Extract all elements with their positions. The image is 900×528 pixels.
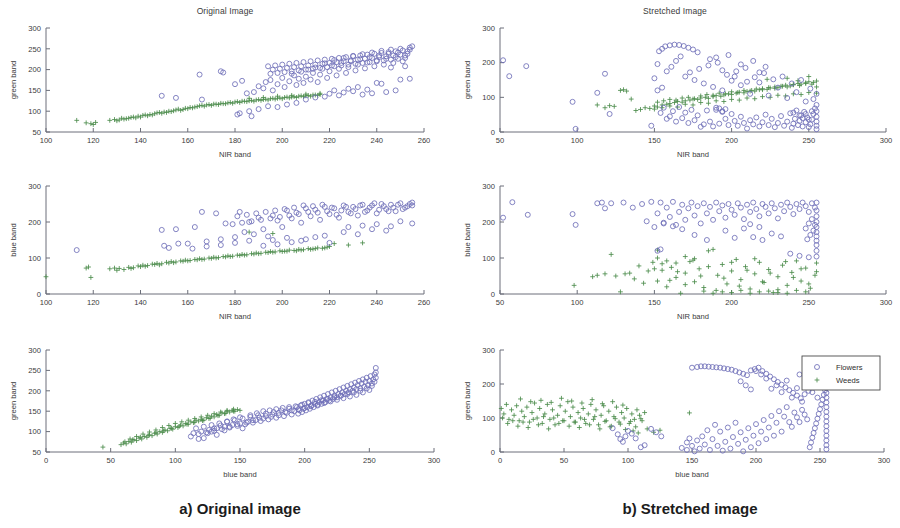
x-tick-label: 100 [571,298,584,307]
y-tick-label: 300 [28,346,41,355]
x-tick-label: 200 [725,136,738,145]
x-tick-label: 50 [496,298,504,307]
x-tick-label: 200 [298,456,311,465]
series-weeds [44,230,365,280]
y-tick-label: 200 [482,218,495,227]
plot-panel-orig-blue-nir: 1001201401601802002202402600100200300NIR… [0,172,450,338]
series-weeds [74,91,322,127]
axis-lines [46,28,424,132]
y-tick-label: 300 [28,182,41,191]
x-tick-label: 140 [134,136,147,145]
x-axis-label: NIR band [219,312,251,321]
x-tick-label: 120 [87,298,100,307]
axis-lines [500,186,886,294]
x-tick-label: 100 [40,298,53,307]
x-tick-label: 0 [44,456,48,465]
series-flowers [610,364,829,454]
plot-svg-stretch-blue-nir: 501001502002503000100200300NIR bandblue … [450,172,900,338]
x-tick-label: 220 [323,136,336,145]
y-tick-label: 300 [482,182,495,191]
y-tick-label: 300 [482,24,495,33]
x-tick-label: 200 [276,298,289,307]
x-tick-label: 150 [686,456,699,465]
y-tick-label: 200 [28,387,41,396]
y-tick-label: 0 [37,290,41,299]
y-tick-label: 100 [482,93,495,102]
plot-panel-orig-green-nir: Original Image10012014016018020022024026… [0,6,450,172]
y-tick-label: 100 [28,427,41,436]
y-tick-label: 200 [482,380,495,389]
x-tick-label: 100 [169,456,182,465]
plot-title-orig-green-nir: Original Image [0,6,450,16]
y-axis-label: green band [463,61,472,99]
y-tick-label: 50 [33,448,41,457]
y-tick-label: 100 [482,254,495,263]
x-axis-label: blue band [223,470,256,479]
x-tick-label: 50 [106,456,114,465]
series-flowers [74,200,414,253]
x-tick-label: 300 [878,456,891,465]
series-weeds [572,247,819,296]
x-tick-label: 0 [498,456,502,465]
axis-lines [500,28,886,132]
legend: FlowersWeeds [802,356,880,390]
series-flowers [188,365,378,441]
plot-svg-orig-green-nir: 1001201401601802002202402605010015020025… [0,6,450,172]
plot-panel-orig-green-blue: 05010015020025030050100150200250300blue … [0,338,450,498]
y-tick-label: 150 [28,407,41,416]
caption-stretched: b) Stretched image [540,500,840,517]
y-tick-label: 250 [28,366,41,375]
x-tick-label: 160 [181,136,194,145]
x-tick-label: 300 [428,456,441,465]
x-tick-label: 150 [648,136,661,145]
y-tick-label: 100 [28,254,41,263]
x-tick-label: 140 [134,298,147,307]
x-tick-label: 240 [370,136,383,145]
y-axis-label: green band [9,61,18,99]
y-tick-label: 200 [482,58,495,67]
plot-svg-stretch-green-blue: 0501001502002503000100200300blue bandgre… [450,338,900,498]
figure-root: a) Original image b) Stretched image Ori… [0,0,900,528]
plot-svg-orig-blue-nir: 1001201401601802002202402600100200300NIR… [0,172,450,338]
y-axis-label: blue band [463,223,472,256]
series-flowers [501,199,819,259]
x-tick-label: 180 [229,298,242,307]
x-tick-label: 200 [750,456,763,465]
x-tick-label: 160 [181,298,194,307]
y-tick-label: 100 [28,107,41,116]
x-tick-label: 150 [234,456,247,465]
x-tick-label: 50 [496,136,504,145]
x-tick-label: 250 [814,456,827,465]
x-tick-label: 100 [622,456,635,465]
x-axis-label: NIR band [677,312,709,321]
x-tick-label: 120 [87,136,100,145]
y-tick-label: 0 [491,448,495,457]
y-tick-label: 0 [491,128,495,137]
x-tick-label: 150 [648,298,661,307]
legend-label: Flowers [836,363,863,372]
x-tick-label: 50 [560,456,568,465]
series-weeds [595,74,819,113]
x-axis-label: NIR band [219,150,251,159]
x-tick-label: 300 [880,298,893,307]
y-tick-label: 200 [28,218,41,227]
y-axis-label: green band [463,382,472,420]
x-tick-label: 200 [276,136,289,145]
plot-panel-stretch-green-blue: 0501001502002503000100200300blue bandgre… [450,338,900,498]
plot-panel-stretch-blue-nir: 501001502002503000100200300NIR bandblue … [450,172,900,338]
plot-title-stretch-green-nir: Stretched Image [450,6,900,16]
x-tick-label: 100 [571,136,584,145]
series-flowers [501,42,819,132]
legend-label: Weeds [836,376,860,385]
x-tick-label: 250 [363,456,376,465]
y-tick-label: 300 [482,346,495,355]
caption-original: a) Original image [90,500,390,517]
x-tick-label: 300 [880,136,893,145]
y-tick-label: 50 [33,128,41,137]
plot-svg-stretch-green-nir: 501001502002503000100200300NIR bandgreen… [450,6,900,172]
y-tick-label: 300 [28,24,41,33]
x-tick-label: 250 [802,298,815,307]
y-axis-label: blue band [9,223,18,256]
x-tick-label: 200 [725,298,738,307]
x-tick-label: 250 [802,136,815,145]
